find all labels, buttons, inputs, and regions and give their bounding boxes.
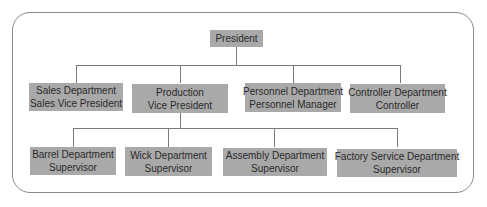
node-label: Sales Department	[36, 84, 116, 97]
connector-assembly	[274, 128, 275, 147]
connector-factory	[397, 128, 398, 147]
node-production: Production Vice President	[132, 84, 228, 113]
node-barrel-department: Barrel Department Supervisor	[30, 147, 116, 175]
node-role: Sales Vice President	[30, 97, 122, 110]
node-role: Supervisor	[49, 161, 97, 174]
connector-production	[180, 65, 181, 83]
node-label: Personnel Department	[243, 85, 343, 98]
node-role: Supervisor	[145, 162, 193, 175]
node-label: Production	[156, 86, 204, 99]
node-label: Wick Department	[130, 149, 207, 162]
connector-controller	[400, 65, 401, 83]
node-role: Supervisor	[251, 162, 299, 175]
connector-sales	[76, 65, 77, 83]
node-factory-service-department: Factory Service Department Supervisor	[337, 149, 457, 177]
connector-wick	[168, 128, 169, 147]
node-role: Controller	[376, 99, 419, 112]
node-role: Supervisor	[373, 163, 421, 176]
node-sales-department: Sales Department Sales Vice President	[29, 83, 123, 111]
node-wick-department: Wick Department Supervisor	[125, 147, 212, 176]
node-president-title: President	[215, 32, 257, 45]
node-label: Controller Department	[348, 86, 446, 99]
connector-president-down	[236, 47, 237, 65]
node-assembly-department: Assembly Department Supervisor	[223, 148, 327, 176]
connector-production-down	[180, 113, 181, 129]
node-label: Factory Service Department	[335, 150, 460, 163]
node-label: Barrel Department	[32, 148, 114, 161]
node-president: President	[210, 30, 263, 47]
node-role: Personnel Manager	[249, 98, 336, 111]
connector-personnel	[293, 65, 294, 83]
connector-barrel	[73, 128, 74, 147]
node-controller-department: Controller Department Controller	[350, 84, 445, 113]
node-role: Vice President	[148, 99, 212, 112]
connector-level2-bus	[76, 65, 401, 66]
node-label: Assembly Department	[226, 149, 324, 162]
connector-level3-bus	[73, 128, 398, 129]
node-personnel-department: Personnel Department Personnel Manager	[245, 83, 341, 112]
